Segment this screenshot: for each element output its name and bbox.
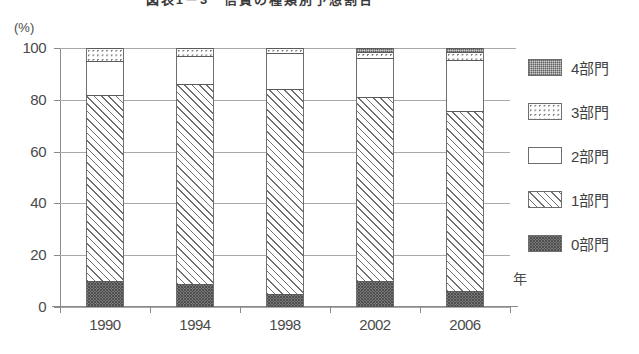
bar-segment-1994-3部門[interactable]: [176, 48, 214, 56]
y-tick-mark-80: [54, 100, 60, 101]
bar-segment-1998-2部門[interactable]: [266, 53, 304, 89]
y-tick-mark-20: [54, 255, 60, 256]
legend-item-1部門[interactable]: 1部門: [528, 188, 609, 210]
x-tick-mark-1: [150, 306, 151, 313]
legend-swatch-0部門: [528, 235, 562, 252]
y-tick-label-20: 20: [0, 246, 46, 263]
bar-segment-1994-0部門[interactable]: [176, 284, 214, 307]
bar-segment-1998-3部門[interactable]: [266, 48, 304, 53]
x-tick-label-2006: 2006: [430, 316, 500, 333]
stacked-bar-chart: 図表1－3 信貸の種類別予想割合 (%) 0204060801001990199…: [0, 0, 639, 354]
x-axis-unit-label: 年: [513, 268, 527, 288]
bar-group-1990[interactable]: [86, 48, 124, 307]
legend-swatch-2部門: [528, 147, 562, 164]
x-tick-mark-2: [240, 306, 241, 313]
bar-segment-1998-1部門[interactable]: [266, 89, 304, 294]
legend-label-0部門: 0部門: [571, 233, 609, 254]
x-tick-label-1998: 1998: [250, 316, 320, 333]
bar-group-1998[interactable]: [266, 48, 304, 307]
bar-segment-2002-4部門[interactable]: [356, 48, 394, 52]
legend-label-1部門: 1部門: [571, 189, 609, 210]
bar-segment-1998-0部門[interactable]: [266, 294, 304, 307]
legend-item-2部門[interactable]: 2部門: [528, 144, 609, 166]
bar-segment-2006-4部門[interactable]: [446, 48, 484, 52]
legend-item-3部門[interactable]: 3部門: [528, 100, 609, 122]
y-axis-unit-label: (%): [14, 20, 34, 35]
x-tick-label-2002: 2002: [340, 316, 410, 333]
y-tick-label-80: 80: [0, 91, 46, 108]
chart-title: 図表1－3 信貸の種類別予想割合: [0, 0, 520, 7]
x-tick-mark-end: [510, 306, 511, 313]
y-tick-label-60: 60: [0, 143, 46, 160]
bar-segment-1990-1部門[interactable]: [86, 95, 124, 281]
bar-segment-2002-2部門[interactable]: [356, 58, 394, 97]
x-tick-label-1994: 1994: [160, 316, 230, 333]
y-tick-label-100: 100: [0, 39, 46, 56]
bar-segment-1994-1部門[interactable]: [176, 84, 214, 283]
bar-segment-2006-3部門[interactable]: [446, 52, 484, 60]
y-tick-mark-60: [54, 152, 60, 153]
y-axis-line: [60, 48, 61, 307]
legend-swatch-4部門: [528, 59, 562, 76]
bar-group-1994[interactable]: [176, 48, 214, 307]
legend-item-0部門[interactable]: 0部門: [528, 232, 609, 254]
bar-segment-2002-3部門[interactable]: [356, 52, 394, 58]
x-tick-mark-0: [60, 306, 61, 313]
bar-segment-2002-1部門[interactable]: [356, 97, 394, 281]
gridline-0: [60, 307, 510, 308]
bar-segment-1990-2部門[interactable]: [86, 61, 124, 95]
bar-segment-2006-1部門[interactable]: [446, 111, 484, 291]
legend-label-2部門: 2部門: [571, 145, 609, 166]
bar-segment-2006-2部門[interactable]: [446, 60, 484, 112]
y-tick-label-40: 40: [0, 194, 46, 211]
legend-label-4部門: 4部門: [571, 57, 609, 78]
legend-item-4部門[interactable]: 4部門: [528, 56, 609, 78]
legend-swatch-1部門: [528, 191, 562, 208]
y-tick-label-0: 0: [0, 298, 46, 315]
bar-group-2002[interactable]: [356, 48, 394, 307]
y-tick-mark-40: [54, 203, 60, 204]
y-tick-mark-100: [54, 48, 60, 49]
bar-segment-2006-0部門[interactable]: [446, 291, 484, 307]
bar-segment-1990-0部門[interactable]: [86, 281, 124, 307]
legend-swatch-3部門: [528, 103, 562, 120]
bar-segment-1994-2部門[interactable]: [176, 56, 214, 84]
x-tick-mark-4: [420, 306, 421, 313]
bar-segment-1990-3部門[interactable]: [86, 48, 124, 61]
bar-segment-2002-0部門[interactable]: [356, 281, 394, 307]
bar-group-2006[interactable]: [446, 48, 484, 307]
plot-area: 02040608010019901994199820022006: [60, 48, 510, 307]
x-tick-label-1990: 1990: [70, 316, 140, 333]
x-tick-mark-3: [330, 306, 331, 313]
legend-label-3部門: 3部門: [571, 101, 609, 122]
